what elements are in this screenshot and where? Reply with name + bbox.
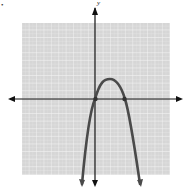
y-axis-up-arrow-icon <box>92 7 98 15</box>
item-label: • <box>1 1 3 9</box>
intercept-point <box>93 97 97 101</box>
y-axis-down-arrow-icon <box>92 180 98 187</box>
chart-svg <box>0 0 187 187</box>
curve-right-arrow-icon <box>137 179 143 187</box>
intercept-point <box>122 97 126 101</box>
y-axis-label: y <box>97 0 100 7</box>
curve-left-arrow-icon <box>79 179 85 187</box>
x-axis-left-arrow-icon <box>8 96 15 102</box>
x-axis-right-arrow-icon <box>176 96 183 102</box>
parabola-graph: • y <box>0 0 187 187</box>
